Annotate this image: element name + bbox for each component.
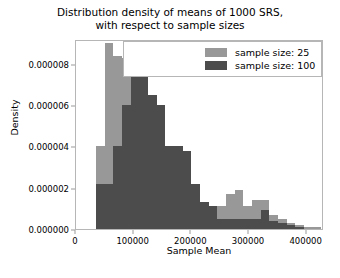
legend-item: sample size: 25 [129, 46, 315, 59]
histogram-bar [252, 219, 261, 229]
y-tick-label: 0.000000 [28, 225, 69, 235]
histogram-bar [278, 223, 287, 229]
x-tick-mark [190, 230, 191, 234]
histogram-bar [269, 221, 278, 229]
histogram-bar [122, 105, 131, 229]
legend-label: sample size: 100 [235, 60, 315, 71]
histogram-bar [312, 227, 321, 229]
x-tick-mark [248, 230, 249, 234]
x-tick-mark [132, 230, 133, 234]
histogram-figure: Distribution density of means of 1000 SR… [0, 0, 340, 278]
legend-swatch [205, 61, 227, 70]
y-axis-ticks: 0.0000000.0000020.0000040.0000060.000008 [0, 40, 75, 230]
legend-label: sample size: 25 [235, 47, 309, 58]
histogram-bar [105, 184, 114, 229]
histogram-bar [243, 219, 252, 229]
histogram-bar [235, 219, 244, 229]
x-tick-mark [305, 230, 306, 234]
histogram-bar [295, 227, 304, 229]
legend-item: sample size: 100 [129, 59, 315, 72]
y-tick-label: 0.000004 [28, 142, 69, 152]
x-axis-label: Sample Mean [75, 245, 323, 256]
histogram-bar [261, 210, 270, 229]
histogram-bar [139, 76, 148, 229]
histogram-bar [217, 219, 226, 229]
histogram-bar [96, 184, 105, 229]
histogram-bar [287, 225, 296, 229]
x-tick-mark [75, 230, 76, 234]
histogram-bar [174, 146, 183, 229]
histogram-bar [157, 105, 166, 229]
histogram-bar [148, 95, 157, 229]
histogram-bar [304, 227, 313, 229]
histogram-bar [209, 206, 218, 229]
legend: sample size: 25sample size: 100 [123, 41, 322, 77]
histogram-bar [200, 202, 209, 229]
histogram-bar [191, 184, 200, 229]
histogram-bar [183, 151, 192, 229]
legend-swatch [205, 48, 227, 57]
y-tick-label: 0.000008 [28, 60, 69, 70]
histogram-bar [113, 146, 122, 229]
chart-title: Distribution density of means of 1000 SR… [0, 6, 340, 32]
y-tick-label: 0.000006 [28, 101, 69, 111]
histogram-bar [165, 146, 174, 229]
y-tick-label: 0.000002 [28, 184, 69, 194]
histogram-bar [226, 219, 235, 229]
histogram-bar [131, 58, 140, 229]
